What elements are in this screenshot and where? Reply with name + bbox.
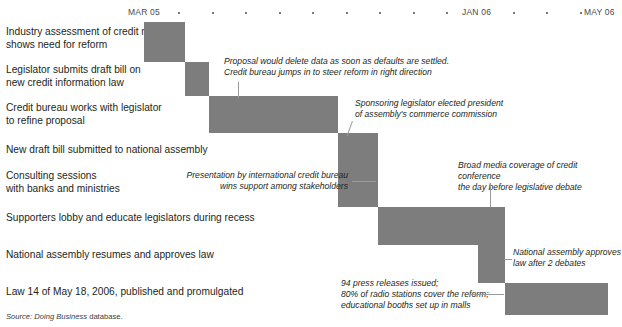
axis-label-may-06: MAY 06 — [584, 7, 615, 17]
annotation-presentation-international-bureau: Presentation by international credit bur… — [158, 170, 348, 192]
source-suffix: database. — [87, 312, 122, 321]
task-label-assembly-resumes-approves: National assembly resumes and approves l… — [6, 249, 214, 262]
task-label-supporters-lobby: Supporters lobby and educate legislators… — [6, 212, 255, 225]
annotation-sponsoring-legislator: Sponsoring legislator elected president … — [355, 98, 503, 120]
axis-tick — [513, 12, 515, 14]
task-label-credit-bureau-refine: Credit bureau works with legislator to r… — [6, 102, 162, 127]
axis-label-jan-06: JAN 06 — [462, 7, 491, 17]
axis-tick — [413, 12, 415, 14]
gantt-bar-industry-assessment — [144, 22, 185, 62]
leader-line-press-releases — [470, 294, 504, 295]
leader-line-proposal-delete-data — [238, 82, 239, 98]
source-prefix: Source: — [6, 312, 34, 321]
axis-tick — [245, 12, 247, 14]
annotation-broad-media-coverage: Broad media coverage of credit conferenc… — [458, 160, 622, 194]
task-label-legislator-submits-bill: Legislator submits draft bill on new cre… — [6, 64, 141, 89]
gantt-bar-legislator-submits-bill — [185, 62, 209, 96]
gantt-bar-credit-bureau-refine — [209, 96, 338, 133]
axis-tick — [312, 12, 314, 14]
gantt-chart-figure: MAR 05 JAN 06 MAY 06 Industry assessment… — [0, 0, 622, 327]
leader-line-presentation-international-bureau — [352, 181, 376, 182]
axis-tick — [546, 12, 548, 14]
annotation-proposal-delete-data: Proposal would delete data as soon as de… — [224, 56, 449, 78]
timeline-axis: MAR 05 JAN 06 MAY 06 — [0, 0, 622, 22]
axis-tick — [446, 12, 448, 14]
leader-line-national-assembly-approves — [504, 259, 512, 260]
axis-label-mar-05: MAR 05 — [128, 7, 160, 17]
axis-tick — [346, 12, 348, 14]
leader-line-broad-media-coverage — [490, 184, 491, 207]
axis-tick — [279, 12, 281, 14]
task-label-consulting-sessions: Consulting sessions with banks and minis… — [6, 170, 120, 195]
source-note: Source: Doing Business database. — [6, 312, 123, 321]
axis-tick — [178, 12, 180, 14]
task-label-new-draft-bill-submitted: New draft bill submitted to national ass… — [6, 144, 208, 157]
task-label-law-14-promulgated: Law 14 of May 18, 2006, published and pr… — [6, 286, 243, 299]
gantt-bar-law-14-promulgated — [505, 283, 608, 315]
annotation-national-assembly-approves: National assembly approves law after 2 d… — [513, 247, 621, 269]
annotation-press-releases: 94 press releases issued; 80% of radio s… — [341, 278, 489, 312]
source-publication-title: Doing Business — [34, 312, 87, 321]
axis-tick — [379, 12, 381, 14]
gantt-bar-supporters-lobby — [378, 207, 505, 245]
axis-tick — [580, 12, 582, 14]
axis-tick — [212, 12, 214, 14]
